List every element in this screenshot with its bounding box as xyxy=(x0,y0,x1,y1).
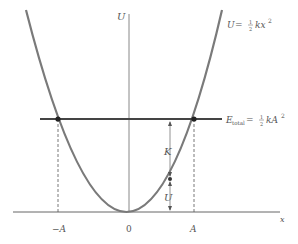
turning-point-right xyxy=(191,116,196,121)
svg-text:total: total xyxy=(232,120,245,126)
y-axis-label: U xyxy=(117,11,126,22)
potential-curve xyxy=(26,10,222,212)
svg-text:2: 2 xyxy=(249,26,252,32)
arrowhead-down-icon xyxy=(168,206,172,211)
arrowhead-up-icon xyxy=(168,121,172,126)
kinetic-label: K xyxy=(163,146,172,157)
svg-text:2: 2 xyxy=(260,121,263,127)
svg-text:kA: kA xyxy=(266,115,278,125)
energy-equation: E total = 1 2 kA 2 xyxy=(225,112,285,127)
tick-neg-a: −A xyxy=(52,224,67,234)
curve-point xyxy=(168,177,172,181)
svg-text:=: = xyxy=(246,115,254,125)
svg-text:2: 2 xyxy=(268,17,272,24)
curve-equation: U = 1 2 kx 2 xyxy=(227,17,272,32)
energy-diagram: U x −A 0 A K U U = 1 2 kx 2 E total = 1 … xyxy=(0,0,298,244)
potential-label: U xyxy=(164,192,173,203)
arrowhead-up-icon xyxy=(168,181,172,186)
svg-text:=: = xyxy=(235,20,243,30)
x-axis-label: x xyxy=(280,215,285,224)
svg-text:1: 1 xyxy=(249,19,252,25)
tick-pos-a: A xyxy=(189,224,197,234)
tick-zero: 0 xyxy=(126,224,132,234)
svg-text:U: U xyxy=(227,20,235,30)
svg-text:1: 1 xyxy=(260,114,263,120)
turning-point-left xyxy=(55,116,60,121)
svg-text:kx: kx xyxy=(255,20,266,30)
svg-text:2: 2 xyxy=(281,112,285,119)
